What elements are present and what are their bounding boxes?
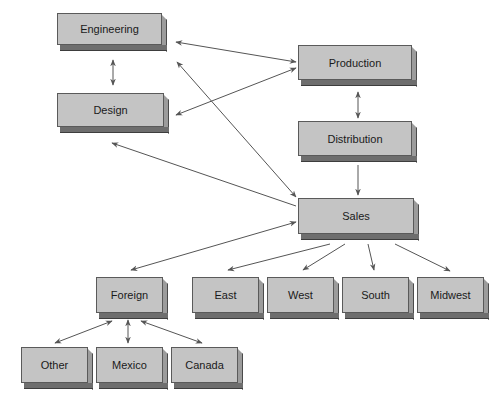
connector-layer — [0, 0, 496, 400]
node-label: Canada — [171, 347, 238, 383]
arrow-engineering-production — [176, 42, 296, 62]
arrow-sales-south — [368, 244, 374, 270]
arrow-sales-design — [112, 143, 296, 206]
arrow-foreign-other — [55, 321, 112, 343]
node-design: Design — [57, 93, 169, 133]
node-label: Production — [298, 45, 412, 80]
node-mexico: Mexico — [96, 347, 168, 389]
node-label: Sales — [298, 198, 414, 234]
node-west: West — [267, 277, 339, 319]
node-label: South — [342, 277, 409, 313]
node-east: East — [192, 277, 264, 319]
node-label: Distribution — [298, 121, 412, 156]
arrow-sales-midwest — [395, 244, 450, 271]
arrow-sales-west — [303, 244, 345, 270]
node-label: Mexico — [96, 347, 163, 383]
node-distribution: Distribution — [298, 121, 417, 162]
node-south: South — [342, 277, 414, 319]
node-other: Other — [21, 347, 93, 389]
arrow-sales-east — [228, 244, 330, 270]
node-midwest: Midwest — [417, 277, 489, 319]
node-label: Design — [57, 93, 164, 127]
node-engineering: Engineering — [57, 13, 167, 51]
node-label: Foreign — [96, 277, 163, 313]
node-canada: Canada — [171, 347, 243, 389]
node-label: East — [192, 277, 259, 313]
node-foreign: Foreign — [96, 277, 168, 319]
arrow-sales-foreign — [131, 222, 296, 270]
org-flow-diagram: Engineering Production Design Distributi… — [0, 0, 496, 400]
node-label: Midwest — [417, 277, 484, 313]
arrow-engineering-sales — [177, 62, 296, 197]
node-label: West — [267, 277, 334, 313]
arrow-foreign-canada — [141, 321, 202, 343]
node-production: Production — [298, 45, 417, 86]
node-label: Other — [21, 347, 88, 383]
node-sales: Sales — [298, 198, 419, 240]
node-label: Engineering — [57, 13, 162, 45]
arrow-design-production — [176, 68, 296, 115]
